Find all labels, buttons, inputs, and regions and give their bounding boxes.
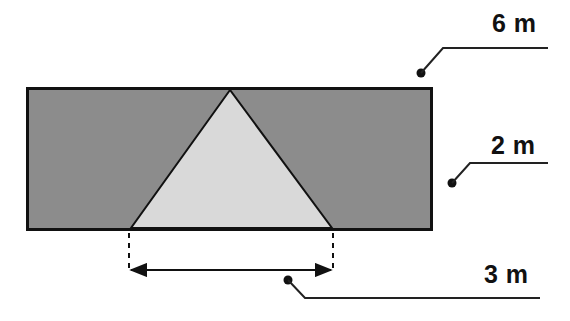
label-rectangle-width: 6 m [492, 11, 537, 36]
label-triangle-base: 3 m [484, 262, 529, 287]
label-rectangle-height: 2 m [491, 133, 536, 158]
leader-width [417, 48, 549, 78]
leader-height [448, 163, 549, 188]
